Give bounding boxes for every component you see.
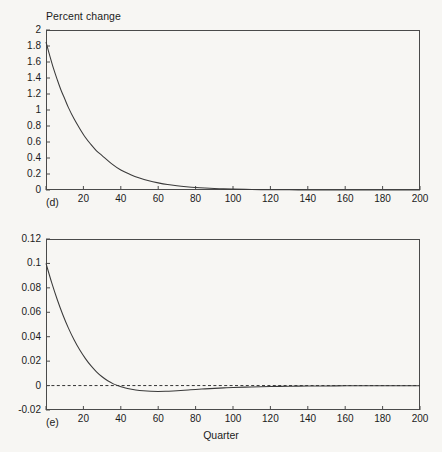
x-tick-label: 80 <box>176 414 216 424</box>
y-tick-label: 1.8 <box>0 41 41 51</box>
x-tick-label: 160 <box>325 414 365 424</box>
y-tick-label: 0.8 <box>0 121 41 131</box>
y-tick-label: 0 <box>0 185 41 195</box>
data-curve <box>46 42 420 190</box>
y-tick-label: 0.2 <box>0 169 41 179</box>
x-tick-label: 80 <box>176 194 216 204</box>
x-tick-label: 100 <box>213 194 253 204</box>
y-tick-label: 0.04 <box>0 332 41 342</box>
figure-container: Percent change 00.20.40.60.811.21.41.61.… <box>0 0 442 452</box>
y-tick-label: 0.08 <box>0 283 41 293</box>
x-tick-label: 180 <box>363 194 403 204</box>
x-tick-label: 140 <box>288 414 328 424</box>
x-tick-label: 20 <box>63 414 103 424</box>
y-tick-label: 0.06 <box>0 307 41 317</box>
x-tick-label: 40 <box>101 194 141 204</box>
y-tick-label: 0.12 <box>0 234 41 244</box>
x-tick-label: 60 <box>138 414 178 424</box>
x-tick-label: 40 <box>101 414 141 424</box>
x-tick-label: 140 <box>288 194 328 204</box>
y-tick-label: 1.4 <box>0 73 41 83</box>
y-tick-label: 0 <box>0 381 41 391</box>
x-tick-label: 200 <box>400 194 440 204</box>
y-tick-label: 0.4 <box>0 153 41 163</box>
y-tick-label: 2 <box>0 25 41 35</box>
x-tick-label: 60 <box>138 194 178 204</box>
chart-panel-e: -0.0200.020.040.060.080.10.1220406080100… <box>0 226 442 452</box>
panel-e-label: (e) <box>46 416 59 428</box>
y-tick-label: 0.1 <box>0 258 41 268</box>
x-tick-label: 120 <box>250 414 290 424</box>
y-tick-label: 0.02 <box>0 356 41 366</box>
panel-e-xaxis-label: Quarter <box>0 429 442 441</box>
x-tick-label: 180 <box>363 414 403 424</box>
x-tick-label: 200 <box>400 414 440 424</box>
x-tick-label: 160 <box>325 194 365 204</box>
chart-panel-d: Percent change 00.20.40.60.811.21.41.61.… <box>0 0 442 226</box>
y-tick-label: 1.6 <box>0 57 41 67</box>
x-tick-label: 100 <box>213 414 253 424</box>
y-tick-label: 1.2 <box>0 89 41 99</box>
data-curve <box>46 263 420 391</box>
y-tick-label: 1 <box>0 105 41 115</box>
panel-d-label: (d) <box>46 196 59 208</box>
y-tick-label: 0.6 <box>0 137 41 147</box>
x-tick-label: 20 <box>63 194 103 204</box>
y-tick-label: -0.02 <box>0 405 41 415</box>
x-tick-label: 120 <box>250 194 290 204</box>
